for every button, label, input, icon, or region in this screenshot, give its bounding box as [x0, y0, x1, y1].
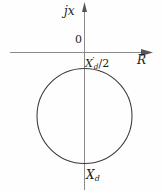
- resistance-axis-label-text: R: [137, 53, 146, 67]
- circle-bottom-base: X: [86, 168, 95, 182]
- circle-bottom-subscript: d: [95, 174, 100, 183]
- resistance-axis-label: R: [137, 54, 146, 66]
- circle-top-divisor: /2: [98, 57, 109, 70]
- circle-top-intercept-label: X′d/2: [85, 56, 109, 70]
- reactance-axis-label-text: jx: [64, 4, 75, 18]
- circle-bottom-intercept-label: Xd: [86, 169, 100, 183]
- reactance-axis-arrow-icon: [82, 2, 87, 12]
- reactance-axis-label: jx: [64, 5, 75, 17]
- diagram-canvas: [0, 0, 163, 194]
- impedance-circle-diagram: jx 0 X′d/2 R Xd: [0, 0, 163, 194]
- origin-label: 0: [75, 34, 82, 45]
- origin-label-text: 0: [75, 33, 82, 46]
